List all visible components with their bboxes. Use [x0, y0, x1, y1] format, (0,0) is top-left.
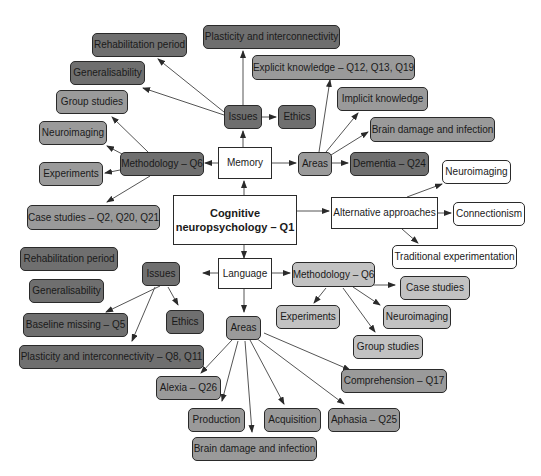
- traditional-experimentation-node: Traditional experimentation: [392, 245, 517, 269]
- memory-generalisability-node: Generalisability: [70, 61, 145, 85]
- memory-issues-node: Issues: [224, 105, 262, 129]
- memory-rehabilitation-node: Rehabilitation period: [92, 33, 187, 57]
- baseline-missing-node: Baseline missing – Q5: [23, 313, 128, 337]
- language-group-studies-node: Group studies: [353, 335, 423, 359]
- dementia-node: Dementia – Q24: [350, 152, 429, 176]
- language-plasticity-node: Plasticity and interconnectivity – Q8, Q…: [19, 345, 204, 369]
- production-node: Production: [188, 408, 245, 432]
- alexia-node: Alexia – Q26: [156, 376, 221, 400]
- language-methodology-node: Methodology – Q6: [292, 262, 375, 287]
- language-ethics-node: Ethics: [166, 310, 204, 334]
- language-node: Language: [218, 258, 272, 289]
- language-neuroimaging-node: Neuroimaging: [383, 305, 451, 329]
- language-issues-node: Issues: [142, 262, 180, 286]
- explicit-knowledge-node: Explicit knowledge – Q12, Q13, Q19: [252, 55, 415, 80]
- language-rehabilitation-node: Rehabilitation period: [20, 247, 118, 271]
- language-case-studies-node: Case studies: [400, 276, 470, 300]
- language-brain-damage-node: Brain damage and infection: [192, 437, 317, 461]
- connectionism-node: Connectionism: [453, 202, 525, 226]
- memory-experiments-node: Experiments: [39, 162, 103, 186]
- memory-neuroimaging-node: Neuroimaging: [39, 121, 107, 145]
- memory-ethics-node: Ethics: [278, 105, 316, 129]
- implicit-knowledge-node: Implicit knowledge: [337, 87, 428, 111]
- acquisition-node: Acquisition: [264, 408, 321, 432]
- aphasia-node: Aphasia – Q25: [328, 408, 400, 432]
- memory-case-studies-node: Case studies – Q2, Q20, Q21: [27, 205, 160, 230]
- memory-node: Memory: [218, 147, 272, 179]
- central-topic-node: Cognitive neuropsychology – Q1: [173, 195, 297, 245]
- language-areas-node: Areas: [226, 316, 261, 340]
- alternative-approaches-node: Alternative approaches: [331, 197, 438, 229]
- memory-areas-node: Areas: [298, 152, 332, 176]
- memory-brain-damage-node: Brain damage and infection: [370, 117, 495, 142]
- memory-methodology-node: Methodology – Q6: [120, 152, 204, 176]
- comprehension-node: Comprehension – Q17: [341, 369, 447, 393]
- language-experiments-node: Experiments: [276, 305, 340, 329]
- memory-group-studies-node: Group studies: [56, 90, 128, 114]
- memory-plasticity-node: Plasticity and interconnectivity: [203, 25, 340, 49]
- alt-neuroimaging-node: Neuroimaging: [442, 160, 511, 184]
- language-generalisability-node: Generalisability: [29, 279, 104, 303]
